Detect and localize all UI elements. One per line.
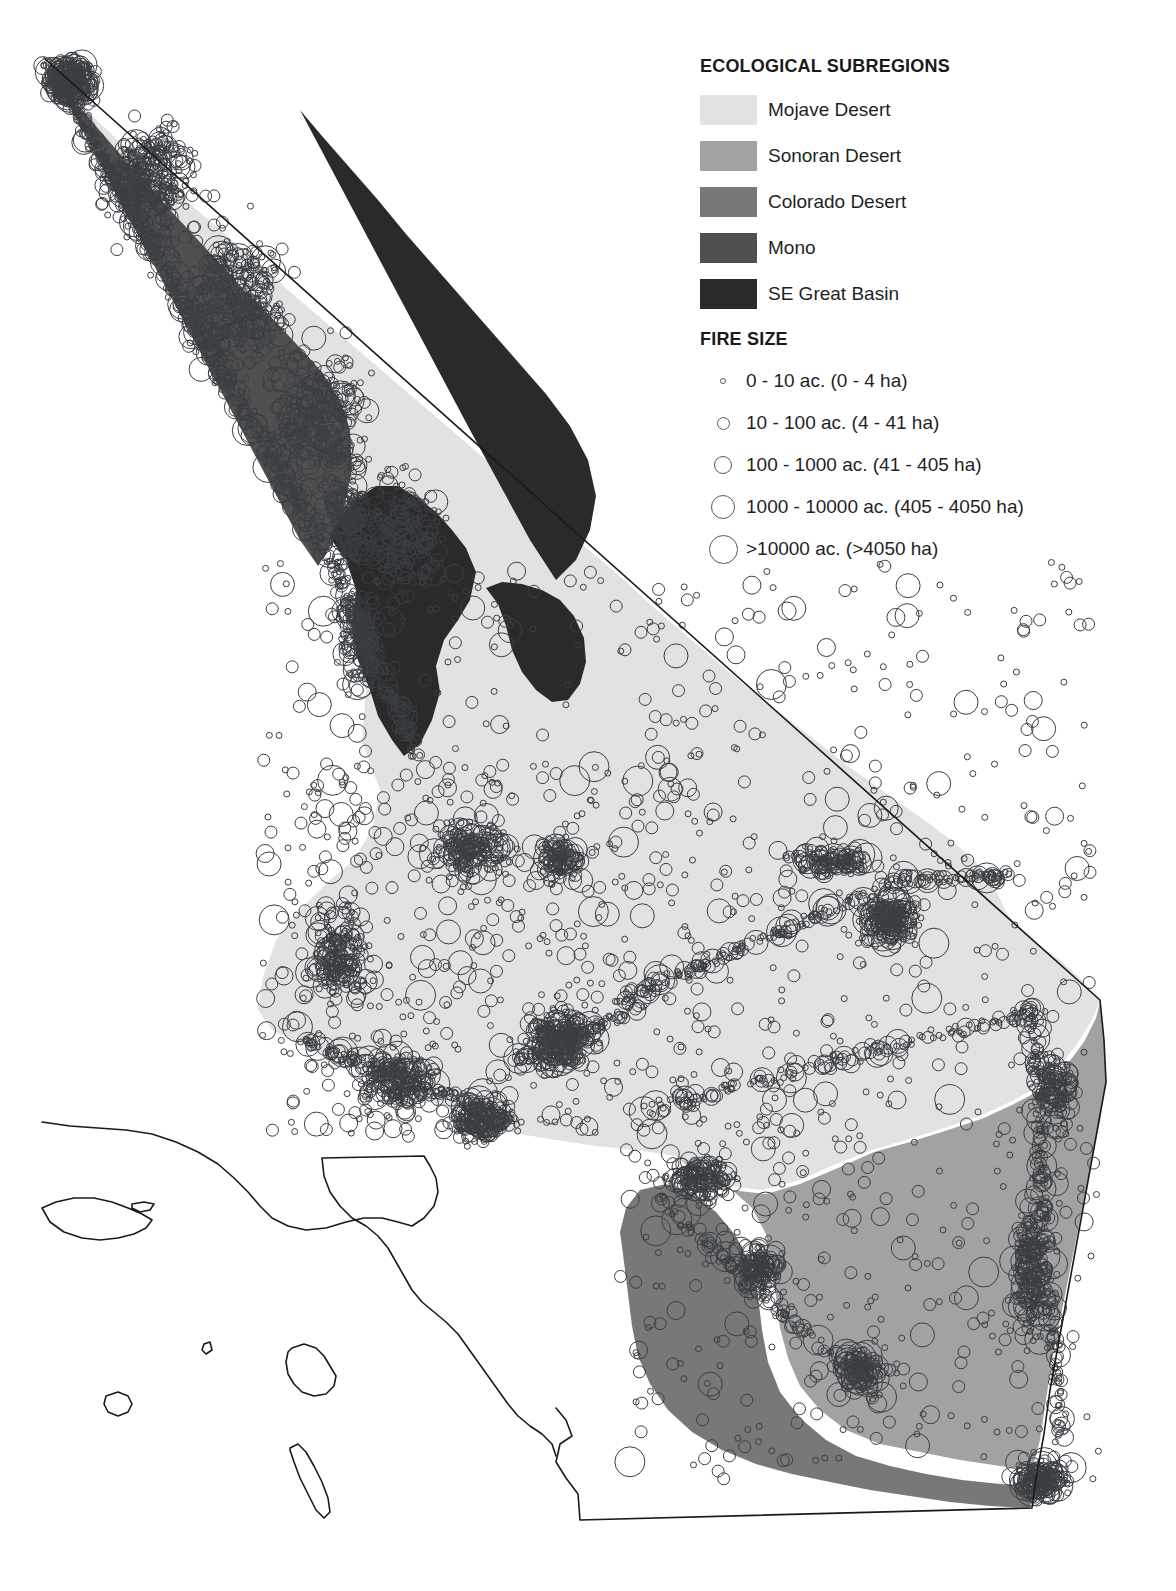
legend-label: SE Great Basin	[768, 283, 899, 305]
legend-row-subregion: SE Great Basin	[700, 271, 1140, 317]
fire-size-circle-icon	[709, 535, 738, 564]
legend-row-fire-size: 0 - 10 ac. (0 - 4 ha)	[700, 360, 1160, 402]
fire-size-legend-title: FIRE SIZE	[700, 328, 1160, 350]
channel-islands-outline	[42, 1198, 336, 1518]
fire-size-label: 0 - 10 ac. (0 - 4 ha)	[746, 370, 908, 392]
ecological-subregions-legend-title: ECOLOGICAL SUBREGIONS	[700, 55, 1140, 77]
legend-row-subregion: Colorado Desert	[700, 179, 1140, 225]
legend-row-subregion: Mojave Desert	[700, 87, 1140, 133]
fire-size-circle-icon	[717, 417, 730, 430]
fire-size-circle-icon	[720, 378, 726, 384]
legend-swatch	[700, 141, 757, 171]
legend-row-fire-size: >10000 ac. (>4050 ha)	[700, 528, 1160, 570]
fire-size-symbol-cell	[700, 495, 746, 519]
coastline-outline	[42, 1122, 556, 1456]
fire-size-circle-icon	[714, 456, 732, 474]
fire-history-map: ECOLOGICAL SUBREGIONS Mojave DesertSonor…	[0, 0, 1176, 1591]
fire-size-symbol-cell	[700, 535, 746, 564]
legend-swatch	[700, 233, 757, 263]
legend-swatch	[700, 187, 757, 217]
legend-label: Sonoran Desert	[768, 145, 901, 167]
fire-size-label: 10 - 100 ac. (4 - 41 ha)	[746, 412, 939, 434]
legend-row-fire-size: 10 - 100 ac. (4 - 41 ha)	[700, 402, 1160, 444]
fire-size-symbol-cell	[700, 378, 746, 384]
legend-label: Mono	[768, 237, 816, 259]
fire-size-label: 100 - 1000 ac. (41 - 405 ha)	[746, 454, 982, 476]
fire-size-symbol-cell	[700, 456, 746, 474]
legend-swatch	[700, 95, 757, 125]
fire-size-circle-icon	[711, 495, 735, 519]
legend-label: Colorado Desert	[768, 191, 906, 213]
legend-row-fire-size: 1000 - 10000 ac. (405 - 4050 ha)	[700, 486, 1160, 528]
legend-row-subregion: Mono	[700, 225, 1140, 271]
legend-row-subregion: Sonoran Desert	[700, 133, 1140, 179]
fire-size-label: >10000 ac. (>4050 ha)	[746, 538, 938, 560]
legend-row-fire-size: 100 - 1000 ac. (41 - 405 ha)	[700, 444, 1160, 486]
fire-size-symbol-cell	[700, 417, 746, 430]
legend-label: Mojave Desert	[768, 99, 891, 121]
ecological-subregions-legend: ECOLOGICAL SUBREGIONS Mojave DesertSonor…	[700, 55, 1140, 317]
fire-size-legend: FIRE SIZE 0 - 10 ac. (0 - 4 ha)10 - 100 …	[700, 328, 1160, 570]
fire-size-label: 1000 - 10000 ac. (405 - 4050 ha)	[746, 496, 1024, 518]
legend-swatch	[700, 279, 757, 309]
